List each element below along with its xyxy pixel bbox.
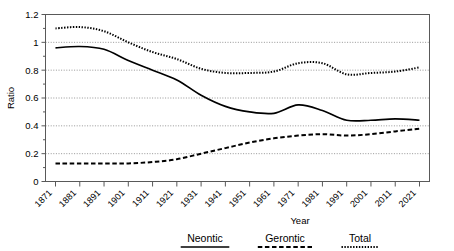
y-tick-label: 1 bbox=[33, 37, 38, 48]
x-tick-label: 2011 bbox=[373, 188, 394, 209]
chart-legend: NeonticGeronticTotal bbox=[181, 232, 379, 247]
legend-label-neontic: Neontic bbox=[187, 232, 223, 244]
line-chart: 00.20.40.60.811.2 1871188118911901191119… bbox=[0, 0, 454, 251]
legend-label-total: Total bbox=[349, 232, 371, 244]
x-tick-label: 1921 bbox=[154, 188, 175, 209]
x-axis-title: Year bbox=[290, 215, 309, 226]
y-tick-label: 0.4 bbox=[25, 120, 38, 131]
y-tick-label: 0.6 bbox=[25, 92, 38, 103]
x-tick-label: 1881 bbox=[57, 188, 78, 209]
x-tick-label: 1951 bbox=[227, 188, 248, 209]
x-axis-ticks bbox=[56, 182, 420, 187]
x-tick-label: 1911 bbox=[130, 188, 151, 209]
x-tick-label: 1891 bbox=[81, 188, 102, 209]
x-tick-label: 1991 bbox=[324, 188, 345, 209]
y-axis-tick-labels: 00.20.40.60.811.2 bbox=[25, 9, 38, 187]
x-axis-tick-labels: 1871188118911901191119211931194119511961… bbox=[33, 188, 418, 209]
x-tick-label: 1871 bbox=[33, 188, 54, 209]
x-tick-label: 2001 bbox=[348, 188, 369, 209]
x-tick-label: 1931 bbox=[178, 188, 199, 209]
x-tick-label: 1971 bbox=[275, 188, 296, 209]
y-tick-label: 0 bbox=[33, 176, 38, 187]
y-tick-label: 0.2 bbox=[25, 148, 38, 159]
x-tick-label: 1981 bbox=[300, 188, 321, 209]
legend-label-gerontic: Gerontic bbox=[265, 232, 305, 244]
x-tick-label: 1961 bbox=[251, 188, 272, 209]
y-axis-title: Ratio bbox=[5, 87, 16, 109]
x-tick-label: 1941 bbox=[203, 188, 224, 209]
y-tick-label: 0.8 bbox=[25, 65, 38, 76]
chart-figure: 00.20.40.60.811.2 1871188118911901191119… bbox=[0, 0, 454, 251]
x-tick-label: 1901 bbox=[105, 188, 126, 209]
x-tick-label: 2021 bbox=[397, 188, 418, 209]
y-axis-ticks bbox=[42, 15, 46, 182]
y-tick-label: 1.2 bbox=[25, 9, 38, 20]
